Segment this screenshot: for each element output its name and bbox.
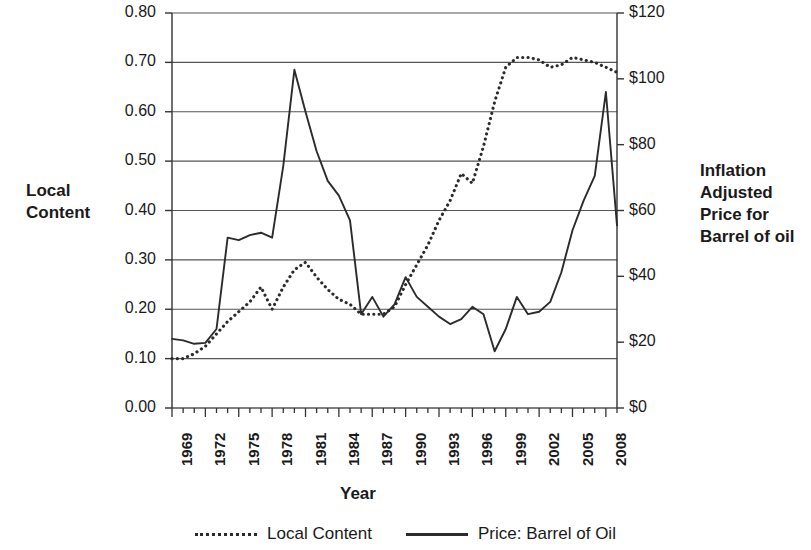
y-tick-label-right: $60 [629, 201, 691, 219]
y-tick-label-left: 0.40 [94, 201, 156, 219]
y-tick-label-left: 0.20 [94, 299, 156, 317]
x-tick-label: 1975 [245, 433, 262, 466]
x-tick-label: 2002 [545, 433, 562, 466]
y-tick-label-right: $40 [629, 266, 691, 284]
y-tick-label-left: 0.00 [94, 398, 156, 416]
legend-swatch-dotted-icon [195, 533, 257, 536]
legend-entry: Local Content [195, 524, 372, 544]
y-tick-label-left: 0.80 [94, 3, 156, 21]
y-tick-label-left: 0.70 [94, 52, 156, 70]
x-tick-label: 1990 [412, 433, 429, 466]
x-tick-label: 1999 [512, 433, 529, 466]
y-tick-label-right: $120 [629, 3, 691, 21]
x-tick-label: 1978 [278, 433, 295, 466]
x-tick-label: 1972 [211, 433, 228, 466]
x-tick-label: 2008 [612, 433, 629, 466]
y-tick-label-right: $100 [629, 69, 691, 87]
y-tick-label-left: 0.10 [94, 349, 156, 367]
legend-label: Local Content [267, 524, 372, 544]
x-axis-title: Year [340, 483, 376, 505]
x-tick-label: 1984 [345, 433, 362, 466]
y-tick-label-right: $80 [629, 135, 691, 153]
legend-label: Price: Barrel of Oil [478, 524, 616, 544]
x-tick-label: 1996 [478, 433, 495, 466]
y-tick-label-left: 0.30 [94, 250, 156, 268]
x-tick-label: 1981 [312, 433, 329, 466]
y-tick-label-left: 0.60 [94, 102, 156, 120]
x-tick-label: 2005 [579, 433, 596, 466]
y-tick-label-left: 0.50 [94, 151, 156, 169]
chart-legend: Local ContentPrice: Barrel of Oil [0, 524, 811, 544]
y-tick-label-right: $0 [629, 398, 691, 416]
series-line-1 [172, 57, 617, 358]
legend-swatch-solid-icon [406, 533, 468, 536]
x-tick-label: 1969 [178, 433, 195, 466]
legend-entry: Price: Barrel of Oil [406, 524, 616, 544]
y-tick-label-right: $20 [629, 332, 691, 350]
chart-figure: Local Content Inflation Adjusted Price f… [0, 0, 811, 550]
x-tick-label: 1987 [378, 433, 395, 466]
x-tick-label: 1993 [445, 433, 462, 466]
right-axis-title: Inflation Adjusted Price for Barrel of o… [700, 160, 811, 248]
